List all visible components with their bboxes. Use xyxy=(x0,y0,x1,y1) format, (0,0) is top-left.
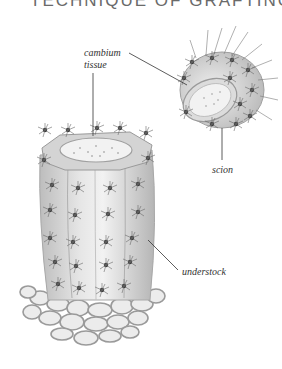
cambium-tissue-label: cambium tissue xyxy=(84,47,121,71)
understock-stem xyxy=(40,132,155,300)
cambium-label-line1: cambium xyxy=(84,47,121,59)
understock-label: understock xyxy=(182,266,226,278)
cambium-label-line2: tissue xyxy=(84,59,121,71)
grafting-diagram: TECHNIQUE OF GRAFTING xyxy=(0,0,282,369)
cambium-leader-line-1 xyxy=(129,53,187,85)
scion-illustration xyxy=(176,26,278,131)
scion-label: scion xyxy=(212,164,233,176)
diagram-illustration xyxy=(0,0,282,369)
